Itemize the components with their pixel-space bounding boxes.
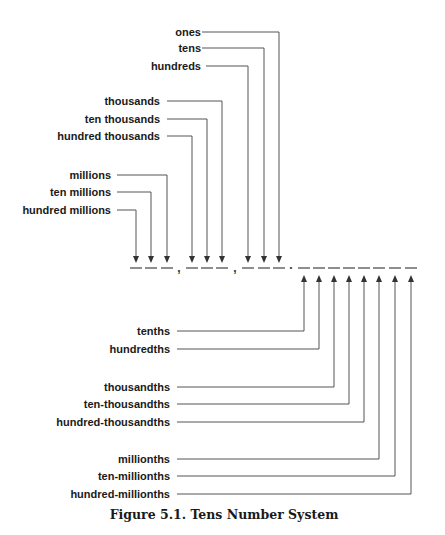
digit-slot-row: ,,. xyxy=(130,258,417,275)
place-label-text: ten-thousandths xyxy=(84,398,170,410)
place-label-text: tenths xyxy=(137,325,170,337)
arrow-up-icon xyxy=(301,275,307,282)
place-value-diagram: onestenshundredsthousandsten thousandshu… xyxy=(0,0,445,535)
leader-line xyxy=(117,192,151,257)
leader-line xyxy=(177,281,349,404)
thousands-separator: , xyxy=(233,261,236,275)
arrow-up-icon xyxy=(361,275,367,282)
place-label-hundredths: hundredths xyxy=(110,275,323,355)
leader-line xyxy=(202,48,264,257)
place-label-text: hundred millions xyxy=(22,204,111,216)
place-label-text: ones xyxy=(175,26,201,38)
leader-line xyxy=(167,119,207,257)
place-label-text: tens xyxy=(178,42,201,54)
arrow-up-icon xyxy=(408,275,414,282)
place-label-text: thousands xyxy=(104,95,160,107)
arrow-up-icon xyxy=(316,275,322,282)
place-label-hundred-millions: hundred millions xyxy=(22,204,139,263)
thousands-separator: , xyxy=(177,261,180,275)
place-label-text: thousandths xyxy=(104,381,170,393)
arrow-down-icon xyxy=(276,256,282,263)
place-label-text: hundred-millionths xyxy=(70,488,170,500)
leader-line xyxy=(117,210,136,257)
leader-line xyxy=(117,175,167,257)
place-label-text: hundred-thousandths xyxy=(56,416,170,428)
leader-line xyxy=(206,66,248,257)
arrow-down-icon xyxy=(245,256,251,263)
place-label-text: hundred thousands xyxy=(57,130,160,142)
whole-number-places: onestenshundredsthousandsten thousandshu… xyxy=(22,26,282,263)
arrow-down-icon xyxy=(133,256,139,263)
arrow-down-icon xyxy=(219,256,225,263)
place-label-text: ten thousands xyxy=(85,113,160,125)
leader-line xyxy=(177,281,364,422)
decimal-point: . xyxy=(289,258,292,272)
leader-line xyxy=(177,281,319,349)
place-label-ten-millionths: ten-millionths xyxy=(98,275,398,482)
place-label-ten-millions: ten millions xyxy=(50,186,154,263)
leader-line xyxy=(177,281,304,331)
arrow-up-icon xyxy=(346,275,352,282)
place-label-millions: millions xyxy=(69,169,170,263)
leader-line xyxy=(177,281,395,476)
place-label-text: hundreds xyxy=(151,60,201,72)
arrow-down-icon xyxy=(189,256,195,263)
decimal-places: tenthshundredthsthousandthsten-thousandt… xyxy=(56,275,414,500)
place-label-hundreds: hundreds xyxy=(151,60,251,263)
place-label-text: hundredths xyxy=(110,343,171,355)
place-label-millionths: millionths xyxy=(118,275,382,465)
leader-line xyxy=(167,101,222,257)
arrow-up-icon xyxy=(376,275,382,282)
arrow-up-icon xyxy=(331,275,337,282)
place-label-text: ten-millionths xyxy=(98,470,170,482)
leader-line xyxy=(167,136,192,257)
place-label-text: ten millions xyxy=(50,186,111,198)
arrow-up-icon xyxy=(392,275,398,282)
place-label-text: millions xyxy=(69,169,111,181)
figure-caption: Figure 5.1. Tens Number System xyxy=(110,507,339,522)
place-label-text: millionths xyxy=(118,453,170,465)
arrow-down-icon xyxy=(204,256,210,263)
arrow-down-icon xyxy=(148,256,154,263)
place-label-tenths: tenths xyxy=(137,275,307,337)
leader-line xyxy=(177,281,334,387)
arrow-down-icon xyxy=(261,256,267,263)
arrow-down-icon xyxy=(164,256,170,263)
